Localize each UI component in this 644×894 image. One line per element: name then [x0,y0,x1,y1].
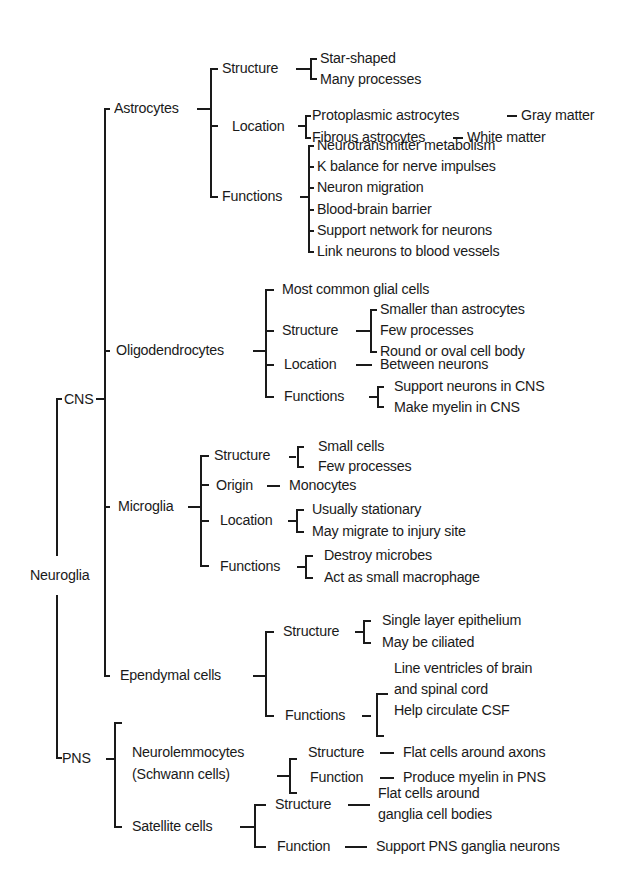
oligodendrocytes-label: Oligodendrocytes [116,341,224,358]
connector [265,631,274,633]
connector [355,631,363,633]
leaf-text: Neurotransmitter metabolism [317,136,495,153]
connector [296,68,303,70]
leaf-text: Support network for neurons [317,221,492,238]
connector [104,506,110,508]
connector [106,758,114,760]
connector [197,108,210,110]
ependymal-structure-label: Structure [283,622,339,639]
leaf-text: Few processes [380,321,474,338]
bracket [363,620,365,642]
connector [305,115,311,117]
connector [254,804,266,806]
connector [288,520,296,522]
leaf-text: May be ciliated [382,633,474,650]
connector [265,715,274,717]
astrocytes-label: Astrocytes [114,99,179,116]
leaf-text: Protoplasmic astrocytes [312,106,459,123]
leaf-text: Small cells [318,437,384,454]
connector [362,715,371,717]
neuroglia-classification-tree: Neuroglia CNS Astrocytes Structure Star-… [0,0,644,894]
connector [376,693,388,695]
connector [96,398,104,400]
connector [370,351,377,353]
connector [210,125,218,127]
connector [369,396,377,398]
leaf-text: Blood-brain barrier [317,200,432,217]
connector [376,735,384,737]
oligodendrocytes-location-label: Location [284,355,336,372]
bracket [310,58,312,78]
connector [188,506,200,508]
leaf-text: Between neurons [380,355,488,372]
astrocytes-location-label: Location [232,117,284,134]
leaf-text: Neuron migration [317,178,423,195]
astrocytes-bracket [210,68,212,196]
connector [200,484,209,486]
bracket [376,693,378,735]
root-bracket-lower [56,595,58,758]
ependymal-label: Ependymal cells [120,666,221,683]
neurolemmocytes-structure-label: Structure [308,743,364,760]
pns-bracket [114,722,116,826]
connector [377,386,384,388]
leaf-text: Usually stationary [312,500,421,517]
connector [297,566,305,568]
connector [253,350,265,352]
connector [310,78,317,80]
microglia-location-label: Location [220,511,272,528]
leaf-text: Single layer epithelium [382,611,521,628]
microglia-structure-label: Structure [214,446,270,463]
neurolemmocytes-label: Neurolemmocytes [132,743,244,760]
connector [254,846,266,848]
connector [104,350,110,352]
leaf-text: Flat cells around axons [403,743,545,760]
connector [200,565,209,567]
connector [298,125,305,127]
leaf-text: Flat cells around [378,784,480,801]
cns-label: CNS [64,390,94,407]
connector [308,209,314,211]
connector [296,509,304,511]
connector [308,251,314,253]
leaf-text: Many processes [320,70,421,87]
connector [380,752,394,754]
bracket [370,309,372,351]
oligodendrocytes-bracket [265,289,267,396]
connector [363,620,371,622]
leaf-text: Monocytes [289,476,356,493]
connector [104,675,110,677]
leaf-text: and spinal cord [394,680,488,697]
connector [348,804,370,806]
ependymal-bracket [265,631,267,715]
connector [370,309,377,311]
pns-label: PNS [62,749,91,766]
connector [289,758,297,760]
leaf-text: Most common glial cells [282,280,429,297]
leaf-text: Act as small macrophage [324,568,480,585]
cns-bracket [104,108,106,676]
bracket [289,758,291,792]
connector [104,108,110,110]
connector [265,330,274,332]
microglia-functions-label: Functions [220,557,280,574]
connector [345,846,367,848]
connector [210,68,218,70]
leaf-text: Make myelin in CNS [394,398,520,415]
connector [305,137,311,139]
connector [308,230,314,232]
leaf-text: Star-shaped [320,49,396,66]
leaf-text: ganglia cell bodies [378,805,492,822]
connector [305,555,313,557]
connector [114,826,122,828]
connector [210,196,218,198]
connector [363,642,371,644]
microglia-bracket [200,455,202,565]
connector [296,531,304,533]
satellite-function-label: Function [277,837,330,854]
root-bracket-upper [56,398,58,556]
connector [507,115,517,117]
satellite-label: Satellite cells [132,817,212,834]
connector [305,577,313,579]
ependymal-functions-label: Functions [285,706,345,723]
